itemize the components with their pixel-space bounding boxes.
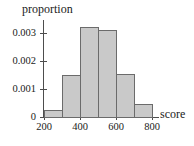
y-axis-title: proportion — [22, 3, 73, 15]
y-tick-mark-3 — [40, 33, 47, 34]
histogram-bar — [44, 110, 63, 118]
histogram-bar — [134, 104, 153, 118]
y-tick-label-3: 0.003 — [0, 28, 36, 39]
histogram-bar — [62, 75, 81, 118]
y-tick-mark-1 — [40, 89, 47, 90]
x-tick-label-400: 400 — [65, 122, 95, 133]
histogram-bar — [116, 74, 135, 118]
y-tick-label-2: 0.002 — [0, 56, 36, 67]
x-axis-title: score — [160, 108, 185, 120]
y-tick-label-1: 0.001 — [0, 84, 36, 95]
x-tick-label-800: 800 — [137, 122, 167, 133]
histogram-figure: proportion score 0 0.001 0.002 0.003 200… — [0, 0, 194, 146]
y-axis-line — [43, 20, 44, 118]
y-tick-label-0: 0 — [0, 112, 36, 123]
histogram-bar — [98, 30, 117, 118]
y-tick-mark-2 — [40, 61, 47, 62]
x-tick-label-600: 600 — [101, 122, 131, 133]
histogram-bar — [80, 27, 99, 118]
plot-area: proportion score 0 0.001 0.002 0.003 200… — [0, 0, 194, 146]
x-tick-label-200: 200 — [29, 122, 59, 133]
